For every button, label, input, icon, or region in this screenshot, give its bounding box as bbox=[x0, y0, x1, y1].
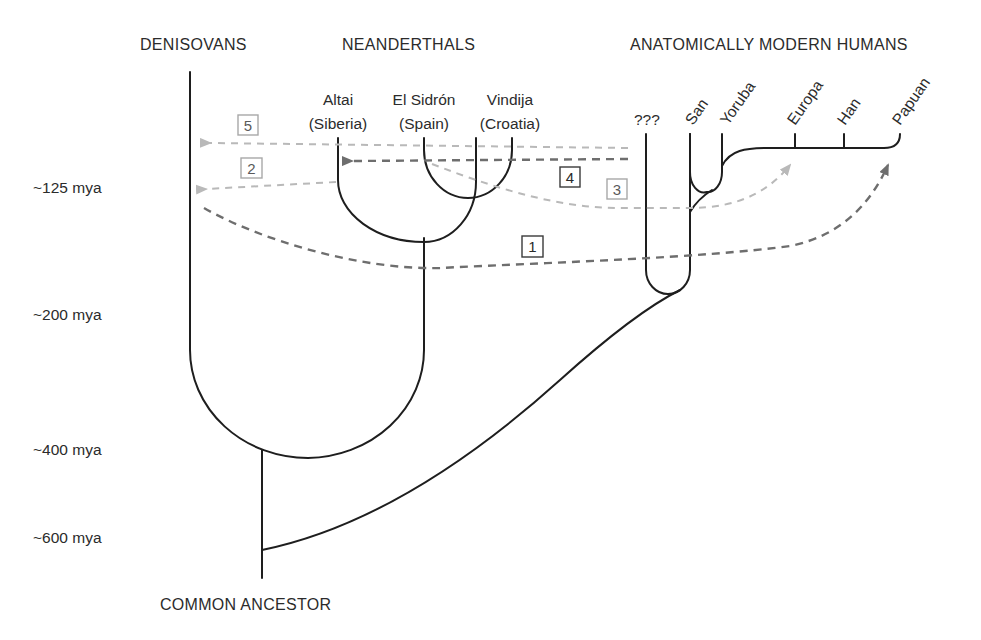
svg-text:Altai: Altai bbox=[323, 91, 353, 108]
gene-flow-2 bbox=[206, 182, 336, 189]
svg-text:3: 3 bbox=[613, 181, 621, 198]
leaf-vindija: Vindija (Croatia) bbox=[480, 91, 540, 132]
branch-denisovan-neanderthal bbox=[190, 72, 424, 458]
leaf-han: Han bbox=[834, 95, 864, 128]
svg-text:El Sidrón: El Sidrón bbox=[393, 91, 456, 108]
leaf-san: San bbox=[682, 95, 712, 127]
svg-text:(Siberia): (Siberia) bbox=[309, 115, 368, 132]
time-label-600: ~600 mya bbox=[33, 529, 102, 546]
flow-label-2: 2 bbox=[241, 158, 262, 178]
leaf-altai: Altai (Siberia) bbox=[309, 91, 368, 132]
flow-label-1: 1 bbox=[522, 236, 543, 257]
flow-label-3: 3 bbox=[607, 179, 627, 199]
branch-san-junction bbox=[690, 190, 712, 212]
branch-non-african bbox=[722, 134, 900, 166]
time-label-125: ~125 mya bbox=[33, 179, 102, 196]
flow-label-4: 4 bbox=[560, 167, 580, 187]
svg-text:(Croatia): (Croatia) bbox=[480, 115, 540, 132]
leaf-el-sidron: El Sidrón (Spain) bbox=[393, 91, 456, 132]
gene-flow-4 bbox=[352, 159, 628, 161]
branch-unknown-split bbox=[646, 134, 690, 294]
svg-text:(Spain): (Spain) bbox=[399, 115, 449, 132]
gene-flow-1 bbox=[204, 165, 888, 268]
branch-neanderthal-split bbox=[338, 138, 476, 242]
leaf-yoruba: Yoruba bbox=[717, 78, 759, 128]
time-label-400: ~400 mya bbox=[33, 441, 102, 458]
leaf-unknown: ??? bbox=[634, 111, 660, 128]
branch-san-yoruba bbox=[690, 134, 722, 192]
phylogeny-diagram: DENISOVANS NEANDERTHALS ANATOMICALLY MOD… bbox=[0, 0, 981, 640]
branch-human-stem bbox=[262, 290, 680, 550]
svg-text:Vindija: Vindija bbox=[487, 91, 534, 108]
group-title-denisovans: DENISOVANS bbox=[140, 36, 247, 53]
svg-text:2: 2 bbox=[247, 160, 255, 177]
gene-flow-5 bbox=[210, 143, 628, 148]
svg-text:1: 1 bbox=[528, 238, 536, 255]
svg-text:4: 4 bbox=[566, 169, 574, 186]
svg-text:5: 5 bbox=[244, 117, 252, 134]
time-label-200: ~200 mya bbox=[33, 306, 102, 323]
leaf-europa: Europa bbox=[784, 77, 827, 128]
flow-label-5: 5 bbox=[238, 115, 258, 135]
root-label: COMMON ANCESTOR bbox=[160, 596, 331, 613]
leaf-papuan: Papuan bbox=[889, 74, 934, 128]
group-title-neanderthals: NEANDERTHALS bbox=[342, 36, 475, 53]
group-title-modern-humans: ANATOMICALLY MODERN HUMANS bbox=[630, 36, 908, 53]
